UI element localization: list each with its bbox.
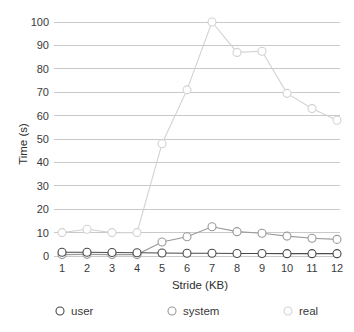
chart-canvas: 0102030405060708090100 123456789101112 T…	[0, 0, 354, 332]
data-point-system-8	[233, 228, 241, 236]
series-real	[58, 18, 341, 237]
y-tick-label: 50	[37, 133, 49, 145]
data-point-user-10	[283, 250, 291, 258]
data-point-system-6	[183, 233, 191, 241]
series-line-real	[62, 22, 337, 233]
legend-label-real[interactable]: real	[299, 305, 318, 317]
y-tick-label: 80	[37, 63, 49, 75]
data-point-real-3	[108, 229, 116, 237]
y-tick-label: 40	[37, 156, 49, 168]
series-layer	[58, 18, 341, 259]
data-point-real-2	[83, 225, 91, 233]
x-tick-label: 11	[306, 262, 317, 274]
data-point-real-4	[133, 229, 141, 237]
data-point-real-8	[233, 48, 241, 56]
x-tick-label: 5	[159, 262, 165, 274]
y-tick-label: 30	[37, 180, 49, 192]
data-point-system-10	[283, 232, 291, 240]
data-point-real-5	[158, 140, 166, 148]
data-point-real-12	[333, 116, 341, 124]
x-tick-label: 10	[281, 262, 293, 274]
data-point-user-2	[83, 248, 91, 256]
legend-marker-real	[284, 307, 292, 315]
data-point-user-12	[333, 250, 341, 258]
data-point-user-11	[308, 250, 316, 258]
gridline-group	[54, 22, 340, 256]
legend-label-user[interactable]: user	[71, 305, 94, 317]
data-point-user-4	[133, 249, 141, 257]
x-tick-label: 2	[84, 262, 90, 274]
y-tick-label: 100	[31, 16, 49, 28]
x-tick-label: 9	[259, 262, 265, 274]
data-point-user-7	[208, 249, 216, 257]
x-axis-title: Stride (KB)	[172, 279, 228, 291]
x-axis-tick-labels: 123456789101112	[59, 262, 343, 274]
y-axis-title: Time (s)	[17, 123, 29, 165]
data-point-real-7	[208, 18, 216, 26]
data-point-real-9	[258, 47, 266, 55]
data-point-system-7	[208, 223, 216, 231]
data-point-user-6	[183, 249, 191, 257]
x-tick-label: 8	[234, 262, 240, 274]
legend-marker-user	[56, 307, 64, 315]
data-point-real-11	[308, 105, 316, 113]
data-point-user-1	[58, 248, 66, 256]
x-tick-label: 4	[134, 262, 140, 274]
y-tick-label: 0	[43, 250, 49, 262]
data-point-user-8	[233, 249, 241, 257]
series-line-user	[62, 252, 337, 253]
data-point-real-10	[283, 89, 291, 97]
data-point-system-9	[258, 229, 266, 237]
y-tick-label: 10	[37, 227, 49, 239]
y-tick-label: 60	[37, 110, 49, 122]
data-point-system-5	[158, 238, 166, 246]
data-point-user-3	[108, 248, 116, 256]
data-point-real-6	[183, 86, 191, 94]
data-point-user-5	[158, 249, 166, 257]
data-point-real-1	[58, 229, 66, 237]
legend-marker-system	[168, 307, 176, 315]
x-tick-label: 6	[184, 262, 190, 274]
data-point-system-11	[308, 234, 316, 242]
chart-legend: usersystemreal	[56, 305, 318, 317]
data-point-user-9	[258, 249, 266, 257]
x-tick-label: 12	[331, 262, 343, 274]
x-tick-label: 3	[109, 262, 115, 274]
y-tick-label: 20	[37, 203, 49, 215]
legend-label-system[interactable]: system	[183, 305, 219, 317]
data-point-system-12	[333, 235, 341, 243]
line-chart: 0102030405060708090100 123456789101112 T…	[0, 0, 354, 332]
y-tick-label: 90	[37, 39, 49, 51]
x-tick-label: 1	[59, 262, 65, 274]
y-axis-tick-labels: 0102030405060708090100	[31, 16, 49, 262]
x-tick-label: 7	[209, 262, 215, 274]
y-tick-label: 70	[37, 86, 49, 98]
